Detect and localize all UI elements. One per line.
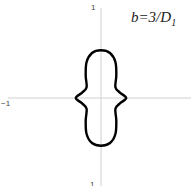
y-tick-bottom: 1 [90, 180, 94, 186]
y-tick-top: 1 [91, 3, 95, 12]
annotation-subscript: 1 [171, 17, 176, 28]
parameter-annotation: b=3/D1 [131, 9, 176, 28]
annotation-main: b=3/D [131, 9, 171, 25]
x-tick-left: −1 [1, 99, 10, 108]
